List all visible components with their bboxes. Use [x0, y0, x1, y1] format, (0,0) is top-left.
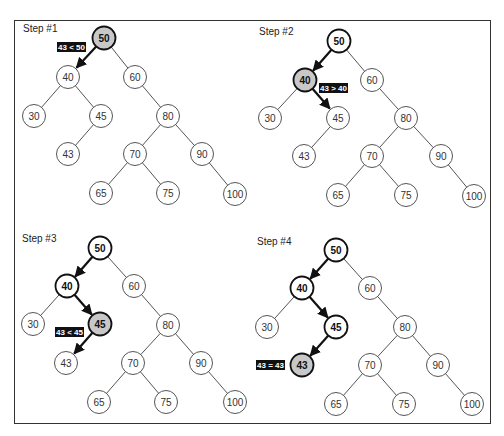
tree-node-100: 100: [224, 391, 247, 414]
tree-node-30: 30: [22, 313, 45, 336]
tree-edge: [414, 126, 433, 147]
tree-edge: [142, 163, 160, 184]
node-value: 75: [400, 190, 412, 201]
tree-edge: [275, 297, 295, 319]
node-value: 45: [94, 319, 106, 330]
comparison-badge: 43 < 45: [55, 327, 84, 337]
tree-node-45: 45: [89, 313, 112, 336]
node-value: 90: [196, 149, 208, 160]
node-value: 40: [62, 72, 74, 83]
node-value: 65: [332, 190, 344, 201]
comparison-badge: 43 < 50: [57, 42, 86, 52]
node-value: 80: [162, 111, 174, 122]
tree-node-90: 90: [190, 352, 213, 375]
node-value: 80: [162, 320, 174, 331]
node-value: 30: [27, 319, 39, 330]
tree-node-90: 90: [430, 145, 453, 168]
tree-edge: [176, 334, 194, 355]
node-value: 75: [398, 399, 410, 410]
tree-edge: [41, 295, 60, 316]
tree-node-30: 30: [23, 105, 46, 128]
tree-node-43: 43: [55, 352, 78, 375]
tree-node-90: 90: [427, 354, 450, 377]
tree-edge: [344, 259, 363, 280]
tree-node-43: 43: [291, 354, 314, 377]
tree-edge: [209, 163, 227, 185]
node-value: 30: [261, 322, 273, 333]
tree-edge: [346, 50, 364, 71]
tree-node-65: 65: [90, 182, 113, 205]
tree-edge: [344, 374, 363, 396]
tree-edge: [278, 88, 297, 109]
search-path-arrow: [310, 297, 328, 318]
node-value: 60: [129, 72, 141, 83]
tree-node-75: 75: [155, 391, 178, 414]
tree-node-100: 100: [224, 183, 247, 206]
node-value: 75: [162, 188, 174, 199]
tree-edge: [380, 165, 399, 187]
tree-edge: [378, 374, 397, 396]
node-value: 40: [61, 281, 73, 292]
tree-node-70: 70: [361, 145, 384, 168]
step-panel-1: Step #1504060304580437090657510043 < 50: [23, 23, 247, 206]
tree-node-45: 45: [325, 316, 348, 339]
node-value: 50: [94, 243, 106, 254]
search-path-arrow: [313, 50, 331, 71]
tree-node-80: 80: [394, 316, 417, 339]
tree-node-43: 43: [293, 145, 316, 168]
node-value: 70: [366, 151, 378, 162]
node-value: 43: [298, 151, 310, 162]
tree-node-65: 65: [327, 184, 350, 207]
node-value: 30: [28, 111, 40, 122]
tree-edge: [380, 127, 399, 148]
node-value: 80: [400, 113, 412, 124]
node-value: 90: [195, 358, 207, 369]
comparison-badge: 43 > 40: [319, 83, 348, 93]
node-value: 45: [332, 113, 344, 124]
tree-node-40: 40: [291, 277, 314, 300]
tree-edge: [446, 374, 465, 396]
node-value: 65: [330, 399, 342, 410]
tree-node-30: 30: [259, 107, 282, 130]
node-value: 65: [95, 188, 107, 199]
search-path-arrow: [75, 295, 92, 315]
tree-node-90: 90: [191, 143, 214, 166]
node-value: 50: [98, 33, 110, 44]
step-label: Step #1: [23, 23, 58, 34]
bst-search-diagram: Step #1504060304580437090657510043 < 50S…: [0, 0, 504, 436]
tree-node-60: 60: [124, 66, 147, 89]
node-value: 43: [60, 358, 72, 369]
tree-node-70: 70: [122, 352, 145, 375]
node-value: 45: [95, 111, 107, 122]
node-value: 50: [330, 245, 342, 256]
tree-edge: [413, 336, 431, 357]
tree-edge: [42, 86, 61, 108]
tree-node-43: 43: [57, 143, 80, 166]
comparison-text: 43 > 40: [320, 84, 347, 93]
tree-node-65: 65: [88, 391, 111, 414]
tree-node-100: 100: [463, 185, 486, 208]
step-label: Step #2: [259, 26, 294, 37]
node-value: 70: [129, 149, 141, 160]
tree-edge: [108, 257, 127, 278]
search-path-arrow: [75, 257, 92, 277]
tree-node-45: 45: [327, 107, 350, 130]
tree-node-50: 50: [328, 30, 351, 53]
tree-node-50: 50: [89, 237, 112, 260]
node-value: 30: [264, 113, 276, 124]
tree-edge: [75, 86, 93, 107]
tree-edge: [109, 163, 128, 185]
node-value: 100: [227, 189, 244, 200]
tree-edge: [142, 295, 161, 317]
node-value: 60: [364, 283, 376, 294]
tree-edge: [141, 333, 160, 354]
step-label: Step #4: [257, 236, 292, 247]
tree-node-70: 70: [359, 354, 382, 377]
tree-edge: [346, 165, 365, 187]
tree-edge: [380, 89, 399, 110]
tree-node-40: 40: [57, 66, 80, 89]
tree-edge: [143, 125, 161, 146]
tree-edge: [176, 125, 195, 146]
node-value: 80: [399, 322, 411, 333]
comparison-text: 43 < 50: [58, 43, 85, 52]
